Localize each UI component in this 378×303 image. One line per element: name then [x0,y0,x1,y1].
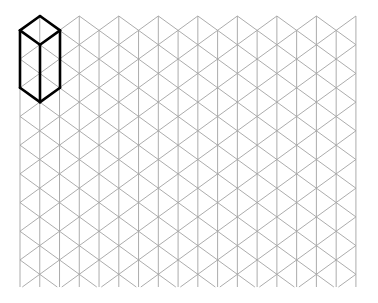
grid-diagonal-line [198,16,218,30]
grid-diagonal-line [79,59,99,73]
grid-diagonal-line [60,188,80,202]
grid-diagonal-line [316,274,333,287]
grid-diagonal-line [257,73,277,87]
grid-diagonal-line [139,217,159,231]
grid-diagonal-line [277,160,297,174]
grid-diagonal-line [158,217,178,231]
grid-diagonal-line [20,131,40,145]
grid-diagonal-line [119,203,139,217]
grid-diagonal-line [158,145,178,159]
grid-diagonal-line [257,131,277,145]
grid-diagonal-line [316,16,336,30]
grid-diagonal-line [257,260,277,274]
grid-diagonal-line [257,102,277,116]
grid-diagonal-line [297,45,317,59]
grid-diagonal-line [297,59,317,73]
grid-diagonal-line [336,16,356,30]
grid-diagonal-line [99,217,119,231]
grid-diagonal-line [40,131,60,145]
grid-diagonal-line [277,73,297,87]
grid-diagonal-line [198,246,218,260]
grid-diagonal-line [99,88,119,102]
grid-diagonal-line [20,160,40,174]
grid-diagonal-line [277,188,297,202]
grid-diagonal-line [40,45,60,59]
grid-diagonal-line [99,260,119,274]
grid-diagonal-line [99,231,119,245]
grid-diagonal-line [119,73,139,87]
grid-diagonal-line [336,131,356,145]
grid-diagonal-line [139,73,159,87]
grid-diagonal-line [40,174,60,188]
grid-diagonal-line [336,188,356,202]
grid-diagonal-line [158,30,178,44]
grid-diagonal-line [336,45,356,59]
grid-diagonal-line [178,30,198,44]
grid-diagonal-line [119,145,139,159]
grid-diagonal-line [257,160,277,174]
grid-diagonal-line [20,231,40,245]
grid-diagonal-line [79,88,99,102]
grid-diagonal-line [336,260,356,274]
grid-diagonal-line [218,160,238,174]
grid-diagonal-line [178,45,198,59]
grid-diagonal-line [178,160,198,174]
grid-diagonal-line [40,73,60,87]
grid-diagonal-line [257,45,277,59]
grid-diagonal-line [40,246,60,260]
grid-diagonal-line [119,188,139,202]
box-edge [40,88,60,102]
grid-diagonal-line [178,116,198,130]
grid-diagonal-line [218,73,238,87]
grid-diagonal-line [218,203,238,217]
grid-diagonal-line [60,260,80,274]
grid-diagonal-line [40,116,60,130]
grid-diagonal-line [79,45,99,59]
grid-diagonal-line [20,102,40,116]
grid-diagonal-line [237,73,257,87]
grid-diagonal-line [158,116,178,130]
grid-diagonal-line [178,188,198,202]
grid-diagonal-line [178,145,198,159]
grid-diagonal-line [158,160,178,174]
grid-diagonal-line [20,174,40,188]
grid-diagonal-line [178,59,198,73]
grid-diagonal-line [316,246,336,260]
grid-diagonal-line [40,231,60,245]
grid-diagonal-line [297,30,317,44]
grid-diagonal-line [277,45,297,59]
grid-diagonal-line [336,160,356,174]
grid-diagonal-line [178,131,198,145]
grid-diagonal-line [259,274,276,287]
grid-diagonal-line [237,160,257,174]
grid-diagonal-line [60,116,80,130]
grid-diagonal-line [316,45,336,59]
grid-diagonal-line [22,274,39,287]
grid-diagonal-line [336,116,356,130]
grid-diagonal-line [99,45,119,59]
grid-diagonal-line [336,246,356,260]
grid-diagonal-line [198,30,218,44]
grid-diagonal-line [40,102,60,116]
grid-diagonal-line [336,217,356,231]
grid-diagonal-line [158,274,175,287]
grid-diagonal-line [20,246,40,260]
grid-diagonal-line [336,59,356,73]
grid-diagonal-line [257,188,277,202]
grid-diagonal-line [119,116,139,130]
grid-diagonal-line [60,59,80,73]
grid-diagonal-line [158,88,178,102]
grid-diagonal-line [139,45,159,59]
grid-diagonal-line [139,160,159,174]
grid-diagonal-line [237,188,257,202]
grid-diagonal-line [336,88,356,102]
grid-diagonal-line [20,116,40,130]
grid-diagonal-line [178,217,198,231]
grid-diagonal-line [20,260,40,274]
grid-diagonal-line [237,30,257,44]
grid-diagonal-line [20,188,40,202]
grid-diagonal-line [139,188,159,202]
grid-diagonal-line [119,274,136,287]
grid-diagonal-line [60,231,80,245]
grid-diagonal-line [119,88,139,102]
